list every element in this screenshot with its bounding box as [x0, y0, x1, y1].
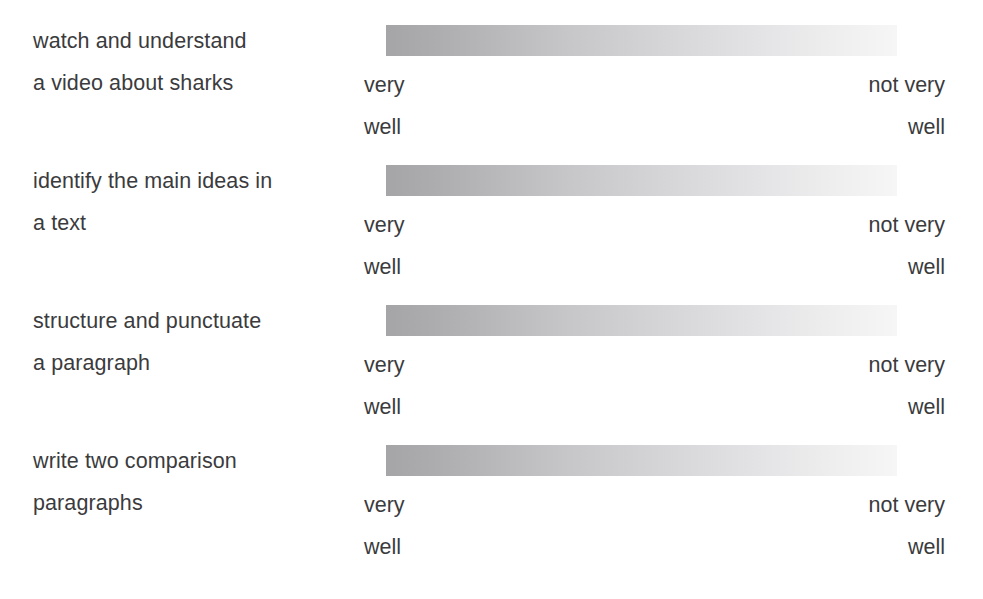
- scale-label-not-very-well: not very well: [869, 484, 945, 568]
- confidence-gradient-bar[interactable]: [386, 25, 897, 56]
- scale-label-not-very-well: not very well: [869, 64, 945, 148]
- skill-row: structure and punctuate a paragraph very…: [0, 300, 983, 440]
- scale-label-not-very-well: not very well: [869, 204, 945, 288]
- confidence-gradient-bar[interactable]: [386, 445, 897, 476]
- scale-label-very-well: very well: [364, 344, 405, 428]
- skill-statement: watch and understand a video about shark…: [33, 20, 363, 104]
- confidence-gradient-bar[interactable]: [386, 305, 897, 336]
- confidence-gradient-bar[interactable]: [386, 165, 897, 196]
- skill-statement: identify the main ideas in a text: [33, 160, 363, 244]
- scale-label-very-well: very well: [364, 64, 405, 148]
- scale-label-very-well: very well: [364, 484, 405, 568]
- scale-label-not-very-well: not very well: [869, 344, 945, 428]
- skill-statement: structure and punctuate a paragraph: [33, 300, 363, 384]
- confidence-scale-worksheet: watch and understand a video about shark…: [0, 0, 983, 599]
- skill-row: write two comparison paragraphs very wel…: [0, 440, 983, 580]
- skill-row: identify the main ideas in a text very w…: [0, 160, 983, 300]
- scale-label-very-well: very well: [364, 204, 405, 288]
- skill-row: watch and understand a video about shark…: [0, 20, 983, 160]
- skill-statement: write two comparison paragraphs: [33, 440, 363, 524]
